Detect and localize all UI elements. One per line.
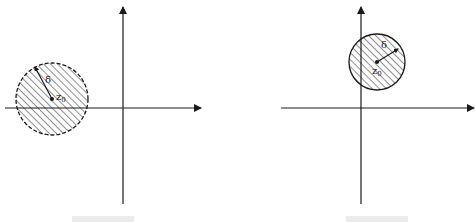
caption-left-cropped	[72, 216, 134, 222]
caption-right-cropped	[346, 216, 408, 222]
delta-label-right: δ	[381, 39, 387, 50]
figure-left: δ z0	[5, 7, 201, 204]
center-point-right	[375, 60, 379, 64]
center-point-left	[50, 97, 54, 101]
figure-right: δ z0	[281, 7, 474, 204]
diagram-canvas: δ z0 δ z0	[0, 0, 475, 222]
delta-label-left: δ	[45, 74, 51, 85]
